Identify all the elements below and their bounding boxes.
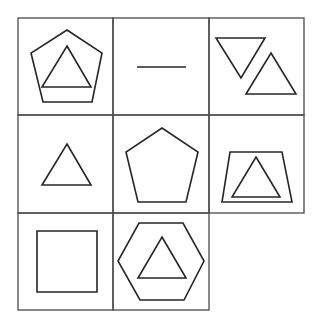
triangle-shape [138, 237, 186, 278]
cell-r2c3 [222, 152, 292, 202]
cell-r2c1 [42, 144, 91, 185]
triangle-shape [42, 46, 91, 87]
pentagon-shape [126, 128, 198, 202]
triangle-shape [232, 157, 280, 197]
cell-r1c3 [216, 38, 296, 94]
grid-cell-r1c3 [209, 18, 304, 115]
grid-cell-r2c1 [18, 115, 113, 213]
square-shape [37, 231, 97, 292]
cell-r3c1 [37, 231, 97, 292]
triangle-shape [246, 53, 296, 94]
cell-shapes [31, 30, 296, 300]
cell-r1c1 [31, 30, 102, 102]
triangle-inverted-shape [216, 38, 265, 78]
pentagon-shape [31, 30, 102, 102]
triangle-shape [42, 144, 91, 185]
pattern-puzzle-grid [0, 0, 322, 329]
grid-cell-r3c2 [113, 213, 209, 310]
hexagon-shape [118, 223, 204, 300]
grid-cell-r3c1 [18, 213, 113, 310]
cell-r3c2 [118, 223, 204, 300]
cell-r2c2 [126, 128, 198, 202]
